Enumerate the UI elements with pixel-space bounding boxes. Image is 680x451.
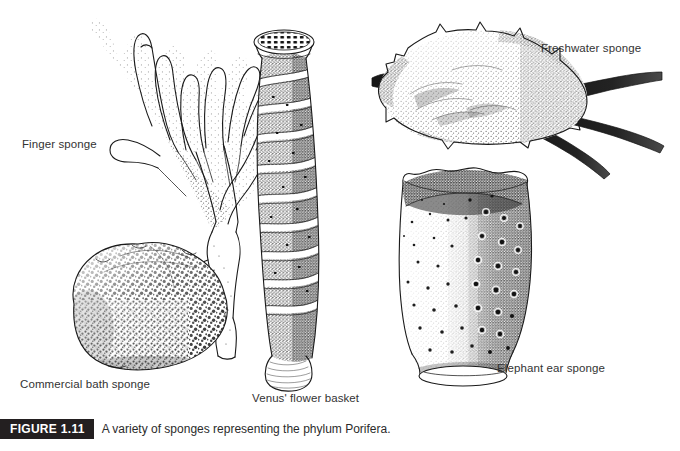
venus-osculum	[254, 30, 314, 59]
label-commercial-bath-sponge: Commercial bath sponge	[20, 378, 150, 390]
figure-caption: FIGURE 1.11 A variety of sponges represe…	[0, 417, 680, 441]
label-freshwater-sponge: Freshwater sponge	[541, 42, 641, 54]
venus-flower-basket-illustration	[250, 30, 332, 391]
elephant-ear-sponge-illustration	[396, 165, 538, 386]
label-elephant-ear-sponge: Elephant ear sponge	[497, 362, 605, 374]
figure-number-badge: FIGURE 1.11	[0, 419, 94, 439]
figure-caption-text: A variety of sponges representing the ph…	[102, 423, 391, 435]
sponge-plate-svg	[0, 0, 680, 410]
commercial-bath-sponge-illustration	[62, 238, 236, 388]
figure-illustration-panel: Finger sponge Commercial bath sponge Ven…	[0, 0, 680, 451]
label-venus-flower-basket: Venus' flower basket	[252, 392, 359, 404]
label-finger-sponge: Finger sponge	[22, 138, 97, 150]
